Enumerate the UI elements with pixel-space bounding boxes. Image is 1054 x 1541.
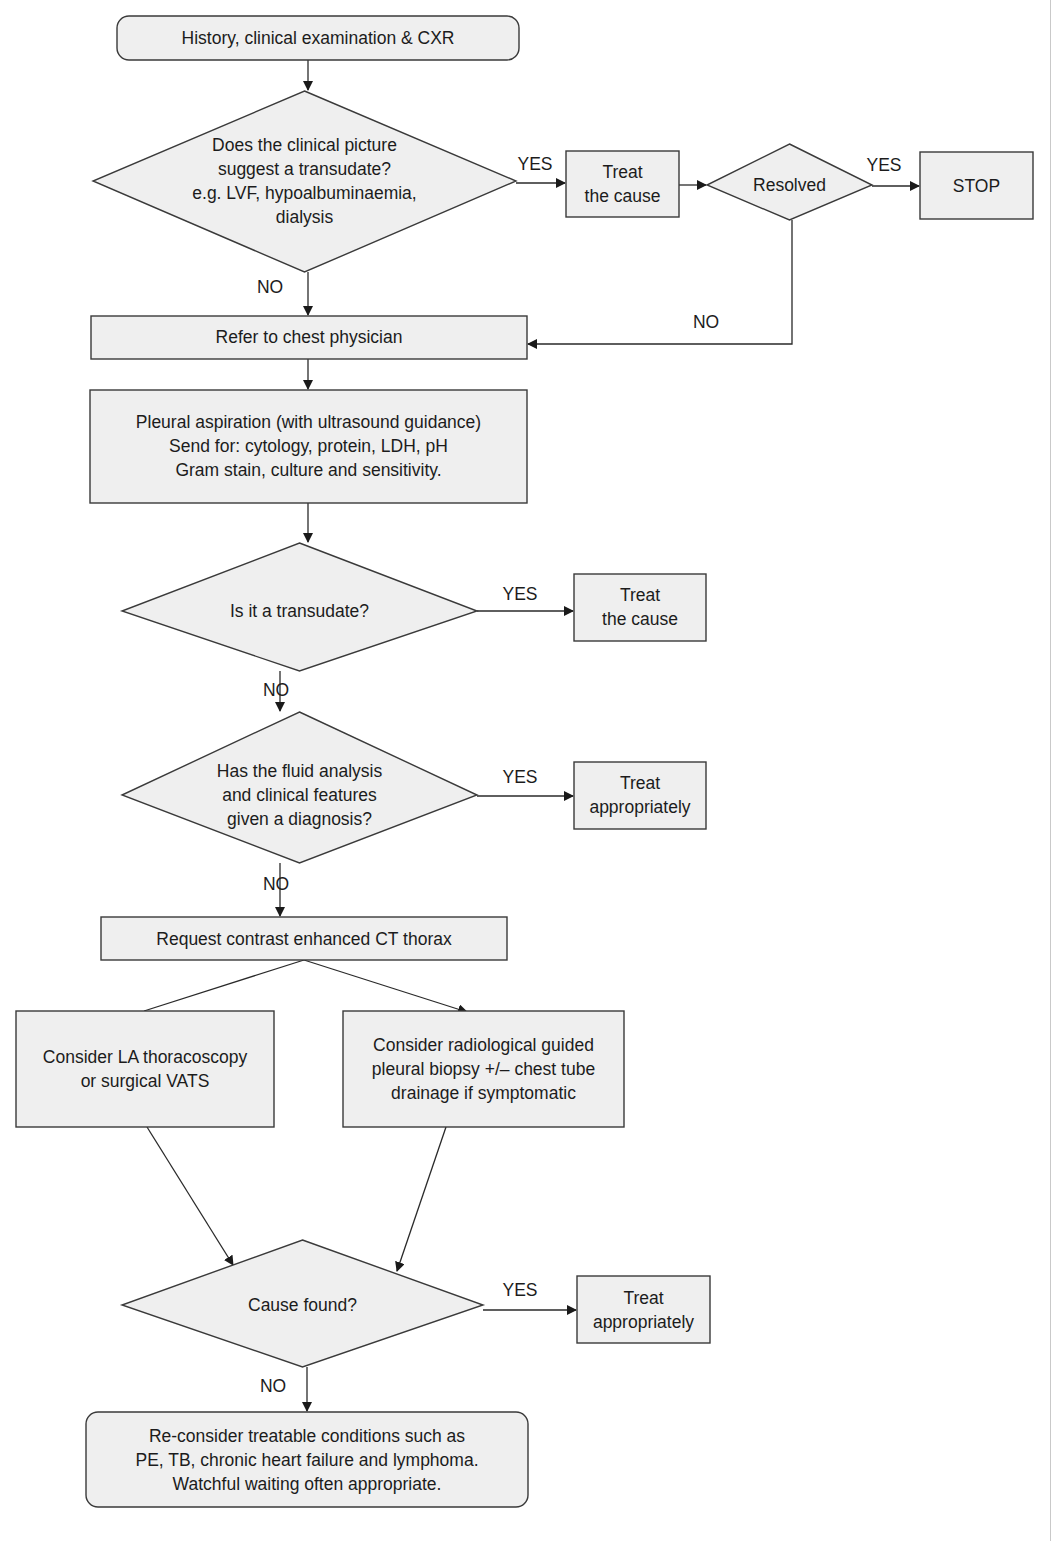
node-text-line: Treat <box>623 1288 663 1308</box>
node-text-line: Re-consider treatable conditions such as <box>149 1426 465 1446</box>
node-thoracoscopy: Consider LA thoracoscopyor surgical VATS <box>16 1011 274 1127</box>
node-text-line: or surgical VATS <box>81 1071 210 1091</box>
edge-label-no: NO <box>693 312 719 332</box>
node-text-line: PE, TB, chronic heart failure and lympho… <box>135 1450 478 1470</box>
node-text-line: given a diagnosis? <box>227 809 372 829</box>
edge-label-no: NO <box>260 1376 286 1396</box>
node-text-line: Is it a transudate? <box>230 601 369 621</box>
node-text-line: the cause <box>602 609 678 629</box>
edge-label-yes: YES <box>866 155 901 175</box>
node-q-is-transudate: Is it a transudate? <box>122 543 477 671</box>
node-resolved: Resolved <box>707 144 872 220</box>
node-ct: Request contrast enhanced CT thorax <box>101 917 507 960</box>
node-text-line: Treat <box>620 773 660 793</box>
node-text-line: Does the clinical picture <box>212 135 397 155</box>
node-treat-cause-1: Treatthe cause <box>566 151 679 217</box>
edge-label-yes: YES <box>517 154 552 174</box>
page-edge-rule <box>1050 0 1051 1541</box>
node-text-line: Request contrast enhanced CT thorax <box>156 929 452 949</box>
decision-diamond <box>93 91 516 272</box>
node-text-line: Send for: cytology, protein, LDH, pH <box>169 436 448 456</box>
connector-thoracoscopy-to-q-cause-found <box>147 1127 233 1265</box>
edge-label-no: NO <box>257 277 283 297</box>
node-text-line: Pleural aspiration (with ultrasound guid… <box>136 412 481 432</box>
edge-label-no: NO <box>263 680 289 700</box>
node-text-line: the cause <box>585 186 661 206</box>
node-text-line: and clinical features <box>222 785 377 805</box>
node-text-line: suggest a transudate? <box>218 159 391 179</box>
connector-ct-to-thoracoscopy <box>144 960 304 1011</box>
node-text-line: Treat <box>620 585 660 605</box>
node-text-line: Cause found? <box>248 1295 357 1315</box>
node-q-diagnosis: Has the fluid analysisand clinical featu… <box>122 712 477 863</box>
edge-label-yes: YES <box>502 767 537 787</box>
node-text-line: dialysis <box>276 207 334 227</box>
node-text-line: e.g. LVF, hypoalbuminaemia, <box>192 183 416 203</box>
node-text-line: STOP <box>953 176 1000 196</box>
node-text-line: Treat <box>602 162 642 182</box>
node-start: History, clinical examination & CXR <box>117 16 519 60</box>
node-text-line: pleural biopsy +/– chest tube <box>372 1059 595 1079</box>
node-treat-cause-2: Treatthe cause <box>574 574 706 641</box>
node-text-line: appropriately <box>593 1312 694 1332</box>
edge-label-yes: YES <box>502 1280 537 1300</box>
node-treat-appropriately-2: Treatappropriately <box>577 1276 710 1343</box>
process-box <box>16 1011 274 1127</box>
node-text-line: Has the fluid analysis <box>217 761 383 781</box>
flowchart-canvas: History, clinical examination & CXRDoes … <box>0 0 1054 1541</box>
connector-biopsy-to-q-cause-found <box>397 1127 446 1271</box>
node-q-transudate-clinical: Does the clinical picturesuggest a trans… <box>93 91 516 272</box>
node-text-line: Refer to chest physician <box>216 327 403 347</box>
node-biopsy: Consider radiological guidedpleural biop… <box>343 1011 624 1127</box>
node-stop: STOP <box>920 152 1033 219</box>
node-text-line: Resolved <box>753 175 826 195</box>
process-box <box>577 1276 710 1343</box>
connector-ct-to-biopsy <box>304 960 467 1012</box>
node-text-line: drainage if symptomatic <box>391 1083 576 1103</box>
connector-resolved-to-refer <box>528 220 792 344</box>
node-reconsider: Re-consider treatable conditions such as… <box>86 1412 528 1507</box>
edge-label-yes: YES <box>502 584 537 604</box>
node-aspiration: Pleural aspiration (with ultrasound guid… <box>90 390 527 503</box>
node-text-line: Gram stain, culture and sensitivity. <box>175 460 441 480</box>
process-box <box>566 151 679 217</box>
node-q-cause-found: Cause found? <box>122 1240 483 1367</box>
node-text-line: Watchful waiting often appropriate. <box>173 1474 442 1494</box>
node-text-line: appropriately <box>589 797 690 817</box>
node-text-line: History, clinical examination & CXR <box>182 28 455 48</box>
node-refer: Refer to chest physician <box>91 316 527 359</box>
node-text-line: Consider radiological guided <box>373 1035 594 1055</box>
node-text-line: Consider LA thoracoscopy <box>43 1047 248 1067</box>
node-treat-appropriately-1: Treatappropriately <box>574 762 706 829</box>
edge-label-no: NO <box>263 874 289 894</box>
